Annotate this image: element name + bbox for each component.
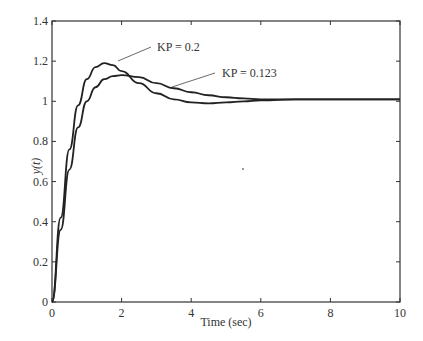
- y-axis-label: y(t): [29, 158, 43, 176]
- annotation-leader-kp0123: [172, 73, 215, 87]
- x-tick-label: 6: [258, 306, 264, 320]
- y-tick-label: 0.2: [33, 255, 48, 269]
- y-tick-label: 0.4: [33, 215, 48, 229]
- x-tick-label: 10: [394, 306, 406, 320]
- annotation-leader-kp02: [118, 47, 151, 61]
- y-tick-label: 1.4: [33, 14, 48, 28]
- series-line: [52, 75, 400, 302]
- annotation-kp02: KP = 0.2: [157, 40, 200, 54]
- y-tick-label: 0.6: [33, 175, 48, 189]
- x-tick-label: 2: [119, 306, 125, 320]
- series-lines: [52, 63, 400, 302]
- annotation-kp0123: KP = 0.123: [222, 66, 277, 80]
- x-tick-label: 0: [49, 306, 55, 320]
- y-tick-label: 1.2: [33, 54, 48, 68]
- y-tick-label: 0.8: [33, 134, 48, 148]
- x-tick-label: 8: [327, 306, 333, 320]
- x-axis-label: Time (sec): [200, 315, 251, 329]
- axis-ticks: 024681000.20.40.60.811.21.4: [33, 14, 406, 320]
- step-response-chart: 024681000.20.40.60.811.21.4 KP = 0.2 KP …: [0, 0, 423, 341]
- x-tick-label: 4: [188, 306, 194, 320]
- y-tick-label: 1: [42, 94, 48, 108]
- speck-mark: [242, 168, 244, 170]
- y-tick-label: 0: [42, 295, 48, 309]
